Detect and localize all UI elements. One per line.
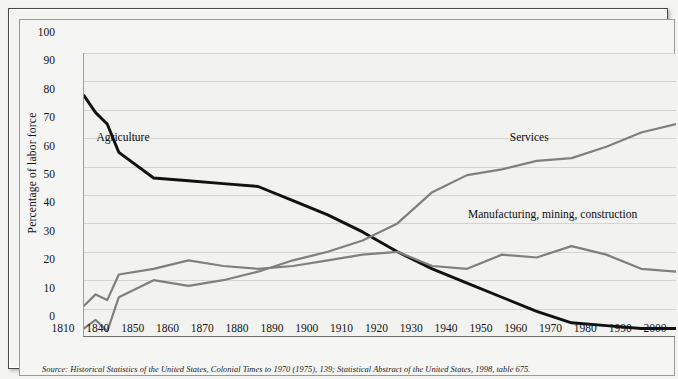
y-axis-title: Percentage of labor force	[26, 53, 38, 293]
series-label-agriculture: Agriculture	[97, 131, 150, 143]
figure-container: Percentage of labor force Agriculture Se…	[0, 0, 678, 379]
gridlines	[84, 54, 676, 338]
series-line-services	[84, 124, 676, 331]
series-line-manufacturing	[84, 246, 676, 306]
x-axis-tick-label: 2000	[635, 322, 675, 334]
series-label-services: Services	[510, 131, 549, 143]
plot-area	[83, 53, 675, 337]
figure-outer-frame: Percentage of labor force Agriculture Se…	[8, 8, 668, 369]
chart-canvas	[84, 53, 676, 337]
series-label-manufacturing: Manufacturing, mining, construction	[468, 208, 637, 220]
source-note: Source: Historical Statistics of the Uni…	[42, 365, 530, 374]
